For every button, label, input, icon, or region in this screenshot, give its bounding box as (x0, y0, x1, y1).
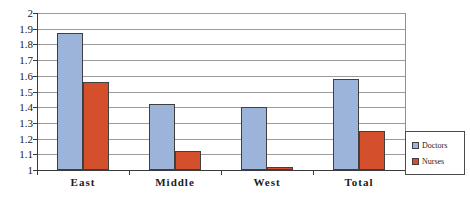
y-axis-tick-label: 1.8 (0, 38, 33, 50)
legend-label: Nurses (422, 157, 444, 166)
y-axis-tick-label: 1.4 (0, 101, 33, 113)
gridline (37, 29, 405, 30)
bar-doctors-west (241, 107, 267, 170)
bar-nurses-east (83, 82, 109, 170)
legend-label: Doctors (422, 141, 447, 150)
bar-chart: 21.91.81.71.61.51.41.31.21.11 EastMiddle… (0, 0, 470, 197)
legend-item-doctors: Doctors (412, 141, 464, 150)
bar-doctors-middle (149, 104, 175, 170)
gridline (37, 60, 405, 61)
bar-nurses-total (359, 131, 385, 170)
y-axis-tick-label: 1.9 (0, 23, 33, 35)
y-axis-line (37, 13, 38, 170)
y-axis-tick-label: 1.5 (0, 86, 33, 98)
x-axis-line (37, 170, 406, 171)
y-axis-tick-label: 1.2 (0, 133, 33, 145)
x-axis-category-label: East (37, 176, 129, 188)
bar-doctors-total (333, 79, 359, 170)
x-axis-category-label: Middle (129, 176, 221, 188)
y-axis-tick-label: 1.3 (0, 117, 33, 129)
legend: DoctorsNurses (405, 131, 465, 175)
gridline (37, 76, 405, 77)
x-axis-category-label: West (221, 176, 313, 188)
legend-marker-nurses (412, 158, 419, 165)
y-axis-tick-label: 2 (0, 7, 33, 19)
gridline (37, 13, 405, 14)
gridline (37, 44, 405, 45)
x-axis-category-label: Total (313, 176, 405, 188)
y-axis-tick-label: 1.6 (0, 70, 33, 82)
y-axis-tick-label: 1.7 (0, 54, 33, 66)
bar-doctors-east (57, 33, 83, 170)
y-axis-tick-label: 1.1 (0, 148, 33, 160)
legend-marker-doctors (412, 142, 419, 149)
legend-item-nurses: Nurses (412, 157, 464, 166)
bar-nurses-middle (175, 151, 201, 170)
y-axis-tick-label: 1 (0, 164, 33, 176)
